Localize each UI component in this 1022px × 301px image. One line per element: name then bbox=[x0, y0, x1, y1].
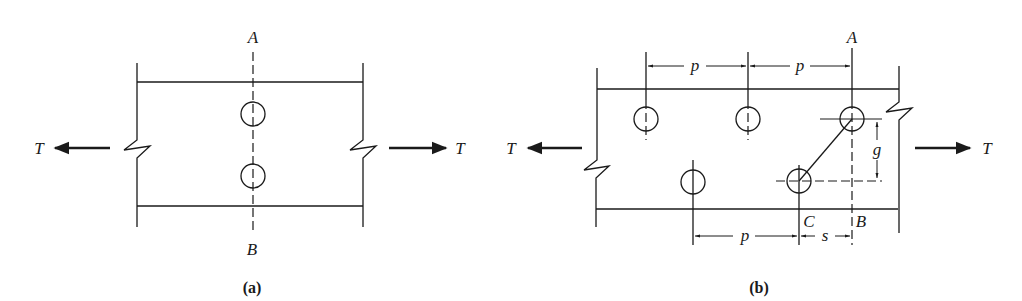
section-label-a: A bbox=[247, 28, 259, 47]
section-label-a: A bbox=[846, 28, 858, 47]
pitch-label: p bbox=[795, 56, 805, 75]
gage-label: g bbox=[873, 140, 882, 159]
caption-b: (b) bbox=[749, 279, 769, 297]
figure-canvas: A B T T (a) bbox=[0, 0, 1022, 301]
left-break-line bbox=[124, 63, 150, 227]
section-label-b: B bbox=[856, 212, 867, 231]
section-label-c: C bbox=[803, 212, 815, 231]
left-break-line bbox=[584, 68, 609, 227]
tension-label-right: T bbox=[455, 139, 466, 158]
tension-label-left: T bbox=[506, 139, 517, 158]
figure-a: A B T T (a) bbox=[34, 28, 466, 297]
pitch-label: p bbox=[740, 226, 750, 245]
right-break-line bbox=[350, 63, 376, 227]
caption-a: (a) bbox=[243, 279, 262, 297]
right-break-line bbox=[886, 66, 912, 233]
stagger-label: s bbox=[822, 226, 829, 245]
pitch-label: p bbox=[690, 56, 700, 75]
figure-b: g p p p s A C B T T (b) bbox=[506, 28, 993, 297]
section-label-b: B bbox=[247, 240, 258, 259]
tension-label-right: T bbox=[982, 139, 993, 158]
tension-label-left: T bbox=[34, 139, 45, 158]
diagonal-failure-path bbox=[799, 119, 852, 181]
